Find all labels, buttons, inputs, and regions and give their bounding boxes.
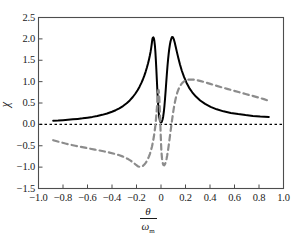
axis-ticks (39, 18, 284, 189)
x-axis-label-numerator: θ (125, 206, 171, 218)
x-axis-label-denominator: ωm (125, 219, 171, 237)
x-tick-label: 0 (158, 193, 163, 204)
x-tick-label: −0.8 (54, 193, 72, 204)
x-tick-label: 0.6 (228, 193, 241, 204)
x-tick-label: −1.0 (29, 193, 47, 204)
chart-figure: −1.5−1.0−0.50.00.51.01.52.02.5 −1.0−0.8−… (0, 0, 299, 238)
omega-subscript: m (149, 227, 154, 235)
axes-frame (39, 18, 284, 189)
x-tick-label: −0.2 (127, 193, 145, 204)
omega-symbol: ω (141, 220, 149, 232)
y-axis-label: χ (0, 102, 13, 107)
y-tick-label: 0.0 (0, 119, 35, 130)
data-series (53, 37, 269, 167)
x-tick-label: 0.8 (253, 193, 266, 204)
x-tick-label: −0.6 (78, 193, 96, 204)
y-tick-label: 2.0 (0, 34, 35, 45)
y-tick-label: 2.5 (0, 12, 35, 23)
x-tick-label: 0.4 (204, 193, 217, 204)
x-axis-label: θ ωm (125, 206, 171, 237)
series-line-absorption (53, 37, 269, 122)
y-tick-label: −1.0 (0, 162, 35, 173)
y-tick-label: 1.5 (0, 55, 35, 66)
y-tick-label: 1.0 (0, 76, 35, 87)
x-tick-label: 1.0 (277, 193, 290, 204)
y-tick-label: −0.5 (0, 141, 35, 152)
x-tick-label: 0.2 (179, 193, 192, 204)
x-tick-label: −0.4 (103, 193, 121, 204)
